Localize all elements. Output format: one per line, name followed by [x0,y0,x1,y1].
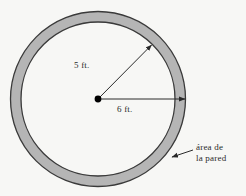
wall-area-label-line2: la pared [196,153,226,164]
inner-radius-label: 5 ft. [74,60,90,70]
wall-area-leader-line [172,150,193,157]
center-point-dot [95,96,102,103]
wall-area-label: área de la pared [196,142,226,164]
outer-radius-label: 6 ft. [117,104,133,114]
annulus-diagram: 5 ft. 6 ft. área de la pared [0,0,246,196]
annulus-figure [0,0,246,196]
wall-area-label-line1: área de [196,142,226,153]
